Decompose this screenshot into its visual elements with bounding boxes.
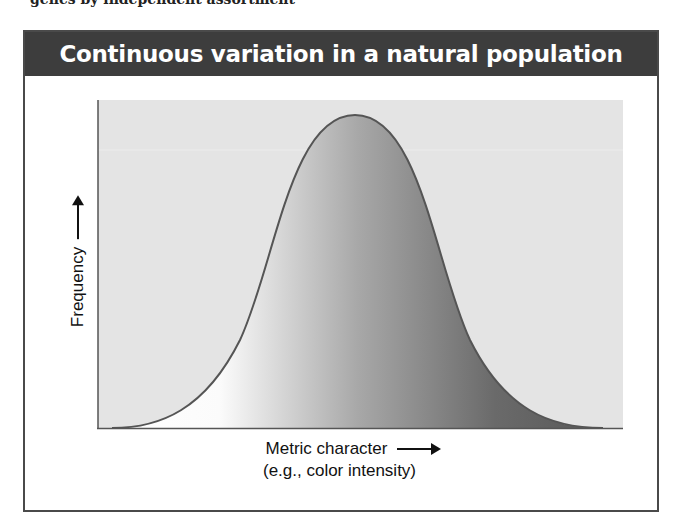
y-axis-label-text: Frequency — [68, 247, 88, 327]
x-axis-label: Metric character (e.g., color intensity) — [0, 438, 679, 482]
y-axis-label: Frequency — [58, 175, 98, 355]
arrow-up-icon — [77, 203, 79, 239]
x-axis-label-line1: Metric character — [266, 438, 388, 460]
x-axis-label-line2: (e.g., color intensity) — [0, 460, 679, 482]
arrow-right-icon — [397, 448, 433, 450]
